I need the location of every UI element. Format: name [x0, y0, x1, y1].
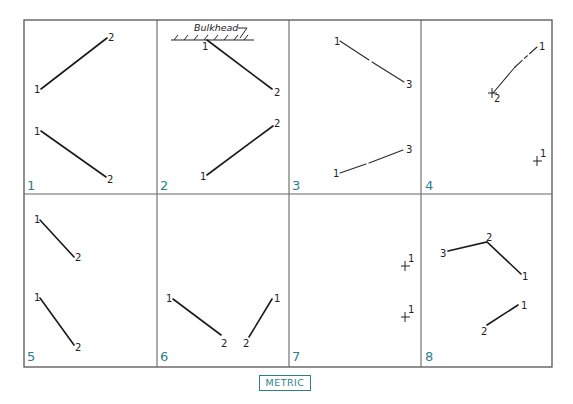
- point-label: 1: [408, 304, 414, 315]
- point-label: 2: [481, 326, 487, 337]
- point-label: 2: [486, 232, 492, 243]
- point-label: 2: [107, 174, 113, 185]
- point-label: 1: [34, 214, 40, 225]
- line-segment: [515, 47, 537, 67]
- line-segment: [369, 150, 403, 163]
- line-segment: [448, 242, 521, 274]
- cell-3: 1 3 1 3 3: [292, 36, 412, 193]
- cell-number: 1: [27, 178, 35, 193]
- point-label: 2: [75, 252, 81, 263]
- cell-4: 1 2 1 4: [425, 41, 546, 193]
- cell-6: 1 2 1 2 6: [160, 293, 280, 364]
- cell-number: 2: [160, 178, 168, 193]
- cell-number: 7: [292, 349, 300, 364]
- bulkhead-label: Bulkhead: [194, 22, 239, 33]
- line-segment: [340, 41, 369, 60]
- point-label: 2: [494, 93, 500, 104]
- cell-7: 1 1 7: [292, 253, 414, 364]
- line-segment: [40, 220, 74, 257]
- line-segment: [41, 131, 106, 177]
- point-label: 3: [440, 248, 446, 259]
- metric-badge: METRIC: [259, 375, 311, 391]
- cell-5: 1 2 1 2 5: [27, 214, 81, 364]
- line-segment: [493, 67, 515, 93]
- line-segment: [372, 62, 404, 82]
- point-label: 1: [522, 271, 528, 282]
- point-label: 1: [521, 300, 527, 311]
- point-label: 1: [540, 148, 546, 159]
- point-label: 1: [200, 171, 206, 182]
- line-segment: [207, 40, 272, 89]
- point-label: 1: [333, 168, 339, 179]
- line-segment: [41, 38, 107, 89]
- cell-1: 1 2 1 2 1: [27, 32, 114, 193]
- cell-number: 6: [160, 349, 168, 364]
- line-segment: [249, 299, 272, 337]
- point-label: 2: [221, 338, 227, 349]
- cell-number: 3: [292, 178, 300, 193]
- point-label: 1: [34, 84, 40, 95]
- point-label: 1: [166, 293, 172, 304]
- point-label: 3: [406, 79, 412, 90]
- point-label: 1: [539, 41, 545, 52]
- line-segment: [173, 299, 221, 335]
- cell-8: 3 2 1 1 2 8: [425, 232, 528, 364]
- point-label: 2: [75, 342, 81, 353]
- line-segment: [487, 305, 518, 325]
- point-label: 3: [406, 144, 412, 155]
- point-label: 1: [408, 253, 414, 264]
- point-label: 2: [243, 338, 249, 349]
- point-label: 1: [334, 36, 340, 47]
- point-label: 1: [274, 293, 280, 304]
- point-label: 2: [108, 32, 114, 43]
- line-segment: [340, 164, 366, 173]
- line-segment: [40, 298, 74, 345]
- point-label: 2: [274, 118, 280, 129]
- cell-number: 5: [27, 349, 35, 364]
- point-label: 2: [274, 87, 280, 98]
- point-label: 1: [34, 126, 40, 137]
- problem-grid: 1 2 1 2 1 Bulkhead 1 2 1 2 2: [0, 0, 573, 404]
- cell-number: 4: [425, 178, 433, 193]
- point-label: 1: [34, 292, 40, 303]
- line-segment: [207, 126, 273, 175]
- cell-number: 8: [425, 349, 433, 364]
- point-label: 1: [202, 41, 208, 52]
- cell-2: Bulkhead 1 2 1 2 2: [160, 22, 280, 193]
